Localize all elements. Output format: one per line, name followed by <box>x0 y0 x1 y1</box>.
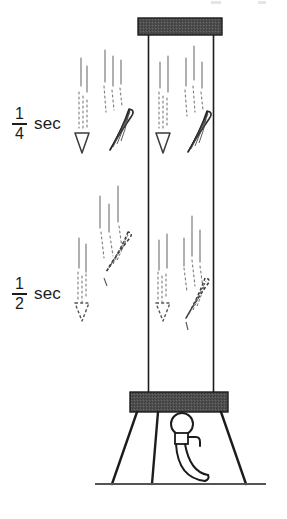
vacuum-tube <box>149 35 214 393</box>
vacuum-pellet-half <box>156 234 170 321</box>
fraction-one-quarter: 1 4 <box>12 106 27 142</box>
fraction-numerator: 1 <box>15 106 24 123</box>
fraction-numerator: 1 <box>15 276 24 293</box>
guinea-and-feather-figure: 1 4 sec 1 2 sec <box>0 0 287 519</box>
lever-handle <box>176 444 209 481</box>
air-feather-quarter <box>104 50 133 150</box>
vacuum-pellet-quarter <box>156 56 170 153</box>
fraction-one-half: 1 2 <box>12 276 27 312</box>
air-feather-half <box>100 186 131 286</box>
air-pellet-half <box>75 238 89 321</box>
top-cap-bar <box>138 18 222 35</box>
fraction-denominator: 4 <box>15 125 24 142</box>
time-label-half-sec: 1 2 sec <box>12 276 61 312</box>
time-label-quarter-sec: 1 4 sec <box>12 106 61 142</box>
base-bar <box>130 392 228 412</box>
vacuum-feather-quarter <box>185 46 211 152</box>
time-unit-label: sec <box>34 284 61 304</box>
top-edge-artifacts <box>211 1 266 4</box>
fraction-denominator: 2 <box>15 295 24 312</box>
apparatus-drawing <box>0 0 287 519</box>
vacuum-feather-half <box>184 216 209 330</box>
time-unit-label: sec <box>34 114 61 134</box>
pump-knob-icon <box>171 413 200 446</box>
air-pellet-quarter <box>75 58 89 153</box>
